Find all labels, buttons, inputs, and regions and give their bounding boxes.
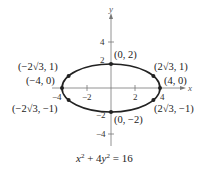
x-axis-arrow-icon <box>180 86 186 90</box>
point-m2r3-1 <box>67 74 71 78</box>
label-m4-0: (−4, 0) <box>26 75 55 87</box>
point-2r3-1 <box>151 74 155 78</box>
tick-x-m4: −4 <box>52 92 62 102</box>
label-0-m2: (0, −2) <box>114 114 143 126</box>
tick-x-2: 2 <box>133 92 138 102</box>
label-m2r3-1: (−2√3, 1) <box>18 61 58 73</box>
tick-y-4: 4 <box>100 37 105 47</box>
label-2r3-m1: (2√3, −1) <box>154 103 194 115</box>
label-0-2: (0, 2) <box>114 49 137 61</box>
tick-y-m4: −4 <box>96 129 106 139</box>
label-2r3-1: (2√3, 1) <box>154 61 188 73</box>
point-4-0 <box>158 86 162 90</box>
x-axis-label: x <box>187 83 192 93</box>
y-axis-label: y <box>108 4 113 14</box>
point-m4-0 <box>60 86 64 90</box>
point-m2r3-m1 <box>67 98 71 102</box>
point-0-2 <box>109 62 113 66</box>
point-2r3-m1 <box>151 98 155 102</box>
tick-x-4: 4 <box>160 92 165 102</box>
equation: x2 + 4y2 = 16 <box>75 152 133 164</box>
eq-plus: + 4 <box>84 152 102 164</box>
label-m2r3-m1: (−2√3, −1) <box>12 103 58 115</box>
label-4-0: (4, 0) <box>164 75 187 87</box>
eq-rhs: = 16 <box>110 152 133 164</box>
ellipse-chart: y x −4 −2 2 4 4 2 −2 −4 (0, 2) (2√3, 1) … <box>0 0 217 173</box>
point-0-m2 <box>109 110 113 114</box>
tick-x-m2: −2 <box>82 92 92 102</box>
